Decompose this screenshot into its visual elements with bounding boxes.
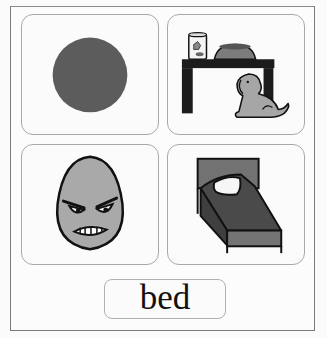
answer-label-text: bed	[140, 280, 191, 315]
picture-card-dog-table[interactable]	[167, 14, 305, 135]
circle-icon	[22, 15, 158, 134]
answer-label-box: bed	[104, 279, 226, 319]
dog-table-icon	[168, 15, 304, 134]
picture-card-bed[interactable]	[167, 144, 305, 265]
angry-egg-icon	[22, 145, 158, 264]
picture-card-circle[interactable]	[21, 14, 159, 135]
bed-icon	[168, 145, 304, 264]
picture-card-angry-egg[interactable]	[21, 144, 159, 265]
